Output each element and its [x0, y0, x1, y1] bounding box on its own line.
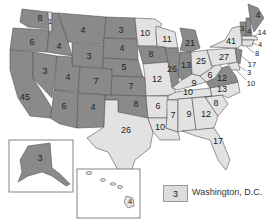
- label-pa: 27: [219, 52, 229, 62]
- label-ga: 12: [201, 109, 211, 119]
- label-wy: 3: [86, 51, 91, 61]
- label-nm: 4: [90, 102, 95, 112]
- label-or: 6: [29, 37, 34, 47]
- label-mn: 10: [140, 28, 150, 38]
- label-id-strip: 1: [48, 17, 52, 26]
- dc-legend-label: Washington, D.C.: [192, 187, 262, 197]
- label-mt: 4: [80, 25, 85, 35]
- label-ok: 8: [133, 99, 138, 109]
- label-ma: 14: [258, 28, 266, 37]
- label-mi: 21: [185, 38, 195, 48]
- label-va: 12: [217, 73, 227, 83]
- label-ak: 3: [37, 153, 42, 163]
- label-la: 10: [155, 122, 165, 132]
- label-tx: 26: [121, 125, 131, 135]
- dc-legend-box: 3: [163, 185, 188, 202]
- label-ca: 45: [20, 92, 30, 102]
- label-ks: 7: [128, 81, 133, 91]
- state-wa[interactable]: [20, 9, 49, 29]
- label-oh: 25: [196, 56, 206, 66]
- label-nd: 3: [118, 25, 123, 35]
- hawaii-inset: [77, 169, 140, 218]
- label-ne: 5: [121, 62, 126, 72]
- label-ny: 41: [226, 36, 236, 46]
- label-in: 13: [181, 60, 191, 70]
- label-vt: 3: [240, 24, 244, 33]
- label-nc: 13: [217, 84, 227, 94]
- label-fl: 17: [213, 136, 223, 146]
- label-az: 6: [61, 101, 66, 111]
- label-nv: 3: [42, 66, 47, 76]
- label-me: 4: [255, 10, 260, 20]
- label-ct: 8: [255, 49, 259, 58]
- label-id: 4: [56, 41, 61, 51]
- label-co: 7: [93, 76, 98, 86]
- label-ut: 4: [65, 72, 70, 82]
- label-ms: 7: [170, 110, 175, 120]
- state-fl[interactable]: [182, 128, 230, 170]
- label-wa: 8: [37, 13, 42, 23]
- label-hi: 4: [128, 197, 132, 206]
- label-ri: 4: [258, 40, 262, 49]
- label-sd: 4: [119, 43, 124, 53]
- label-nh: 4: [247, 27, 251, 36]
- state-ma[interactable]: [242, 36, 258, 40]
- label-mo: 12: [152, 74, 162, 84]
- label-al: 9: [186, 109, 191, 119]
- label-de: 3: [247, 68, 251, 77]
- label-md: 10: [247, 79, 255, 88]
- label-wi: 11: [162, 34, 171, 44]
- label-ar: 6: [155, 101, 160, 111]
- dc-votes: 3: [173, 189, 178, 199]
- label-il: 26: [167, 64, 177, 74]
- label-tn: 10: [183, 87, 193, 97]
- label-sc: 8: [213, 98, 218, 108]
- label-ia: 8: [148, 49, 153, 59]
- label-wv: 6: [207, 70, 212, 80]
